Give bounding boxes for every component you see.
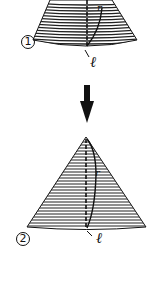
stage-1-marker: 1 <box>21 35 35 49</box>
cone-shape <box>20 137 150 236</box>
radius-label-1: r <box>97 3 102 13</box>
slant-label-1: ℓ <box>90 55 96 70</box>
arrow-down-icon <box>80 85 94 123</box>
slant-label-2: ℓ <box>96 231 102 246</box>
stage-2-marker: 2 <box>16 232 30 246</box>
radius-label-2: r <box>95 168 100 178</box>
frustum-shape <box>20 0 150 57</box>
pointer-mark <box>85 50 89 57</box>
pointer-mark <box>87 231 92 236</box>
